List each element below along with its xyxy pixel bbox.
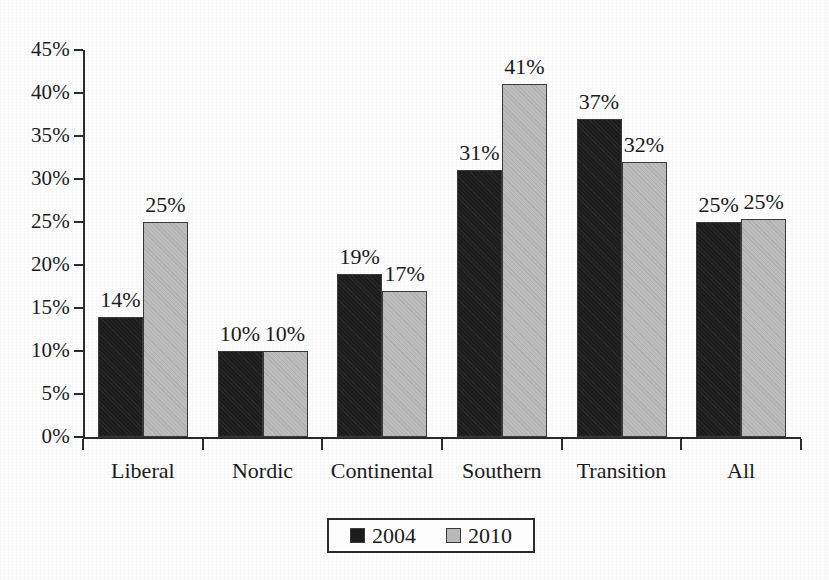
y-axis-tick-label-text: 40%: [4, 82, 70, 103]
x-axis-tick: [321, 439, 323, 450]
x-axis-category-label: Continental: [322, 458, 442, 484]
legend-entry-2004[interactable]: 2004: [350, 525, 416, 547]
bar-chart: 0%5%10%15%20%25%30%35%40%45% 14%25%10%10…: [0, 0, 829, 580]
y-axis-tick: [74, 393, 83, 395]
y-axis-tick-label-text: 35%: [4, 125, 70, 146]
bar-value-label: 14%: [89, 289, 152, 311]
y-axis-tick-label: 25%: [0, 211, 70, 232]
x-axis-category-label: Southern: [442, 458, 562, 484]
plot-area: 0%5%10%15%20%25%30%35%40%45% 14%25%10%10…: [0, 0, 829, 580]
bar-nordic-2010: [263, 351, 308, 437]
y-axis-tick-label-text: 45%: [4, 39, 70, 60]
legend-swatch-icon: [350, 528, 365, 543]
legend-swatch-icon: [446, 528, 461, 543]
y-axis-tick-label-text: 10%: [4, 340, 70, 361]
y-axis-tick-label-text: 5%: [4, 383, 70, 404]
legend-label: 2004: [372, 525, 416, 547]
x-axis-category-label: Liberal: [83, 458, 203, 484]
y-axis-tick-label-text: 30%: [4, 168, 70, 189]
y-axis-tick-label: 20%: [0, 254, 70, 275]
legend: 20042010: [327, 518, 535, 553]
y-axis-tick-label: 40%: [0, 82, 70, 103]
bar-southern-2010: [502, 84, 547, 437]
y-axis-tick-label: 35%: [0, 125, 70, 146]
y-axis-tick: [74, 307, 83, 309]
bar-value-label: 25%: [732, 191, 795, 213]
bar-continental-2004: [337, 274, 382, 437]
y-axis-tick-label: 0%: [0, 426, 70, 447]
x-axis-tick: [561, 439, 563, 450]
bar-all-2010: [741, 219, 786, 437]
y-axis-tick: [74, 49, 83, 51]
bar-value-label: 10%: [254, 323, 317, 345]
bar-continental-2010: [382, 291, 427, 437]
x-axis-category-label: Nordic: [203, 458, 323, 484]
y-axis-tick: [74, 221, 83, 223]
y-axis-line: [83, 50, 85, 438]
bar-value-label: 32%: [613, 134, 676, 156]
x-axis-category-label: All: [681, 458, 801, 484]
bar-value-label: 41%: [493, 56, 556, 78]
x-axis-tick: [441, 439, 443, 450]
bar-all-2004: [696, 222, 741, 437]
bar-value-label: 37%: [568, 91, 631, 113]
y-axis-tick-label: 10%: [0, 340, 70, 361]
y-axis-tick: [74, 135, 83, 137]
bar-transition-2010: [622, 162, 667, 437]
legend-label: 2010: [468, 525, 512, 547]
y-axis-tick-label: 15%: [0, 297, 70, 318]
y-axis-tick-label-text: 20%: [4, 254, 70, 275]
y-axis-tick: [74, 178, 83, 180]
bar-southern-2004: [457, 170, 502, 437]
x-axis-tick: [800, 439, 802, 450]
bar-value-label: 17%: [373, 263, 436, 285]
bar-liberal-2004: [98, 317, 143, 437]
y-axis-tick: [74, 264, 83, 266]
y-axis-tick-label-text: 15%: [4, 297, 70, 318]
y-axis-tick-label-text: 25%: [4, 211, 70, 232]
y-axis-tick-label-text: 0%: [4, 426, 70, 447]
y-axis-tick-label: 5%: [0, 383, 70, 404]
x-axis-category-label: Transition: [562, 458, 682, 484]
x-axis-tick: [680, 439, 682, 450]
bar-transition-2004: [577, 119, 622, 437]
y-axis-tick: [74, 436, 83, 438]
y-axis-tick-label: 30%: [0, 168, 70, 189]
bar-nordic-2004: [218, 351, 263, 437]
bar-value-label: 31%: [448, 142, 511, 164]
x-axis-tick: [82, 439, 84, 450]
y-axis-tick: [74, 92, 83, 94]
x-axis-tick: [202, 439, 204, 450]
bar-value-label: 25%: [134, 194, 197, 216]
legend-entry-2010[interactable]: 2010: [446, 525, 512, 547]
y-axis-tick: [74, 350, 83, 352]
bar-liberal-2010: [143, 222, 188, 437]
y-axis-tick-label: 45%: [0, 39, 70, 60]
